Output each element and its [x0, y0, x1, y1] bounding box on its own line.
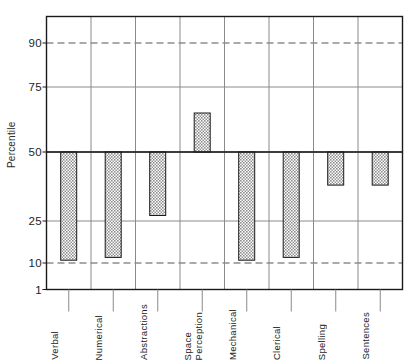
x-label-numerical: Numerical	[93, 315, 133, 360]
bar-space-perception	[194, 113, 210, 152]
bar-sentences	[372, 152, 388, 185]
x-label-space-perception: Space Perception	[182, 312, 222, 360]
gridlines	[43, 17, 403, 290]
x-label-verbal: Verbal	[49, 331, 89, 360]
x-label-abstractions: Abstractions	[138, 304, 178, 360]
bar-abstractions	[150, 152, 166, 216]
bar-spelling	[328, 152, 344, 185]
bar-verbal	[61, 152, 77, 260]
bar-clerical	[283, 152, 299, 257]
x-axis-category-labels: VerbalNumericalAbstractionsSpace Percept…	[0, 292, 419, 364]
bar-mechanical	[239, 152, 255, 260]
x-label-mechanical: Mechanical	[227, 309, 267, 360]
x-label-clerical: Clerical	[271, 326, 311, 360]
x-label-sentences: Sentences	[360, 312, 400, 360]
percentile-bar-chart: Percentile 90755025101 VerbalNumericalAb…	[0, 0, 419, 364]
x-label-spelling: Spelling	[316, 324, 356, 360]
bar-numerical	[105, 152, 121, 257]
